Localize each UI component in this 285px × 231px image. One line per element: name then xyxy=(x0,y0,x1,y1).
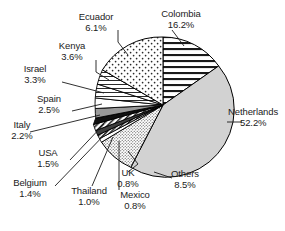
label-spain-name: Spain xyxy=(24,94,74,105)
label-israel-value: 3.3% xyxy=(8,75,62,86)
label-belgium-value: 1.4% xyxy=(2,189,58,200)
label-belgium-name: Belgium xyxy=(2,178,58,189)
label-spain-value: 2.5% xyxy=(24,105,74,116)
label-belgium: Belgium 1.4% xyxy=(2,178,58,199)
pie-chart-figure: Ecuador 6.1% Colombia 16.2% Kenya 3.6% I… xyxy=(0,0,285,231)
label-ecuador: Ecuador 6.1% xyxy=(60,12,132,33)
label-colombia-value: 16.2% xyxy=(144,20,218,31)
label-uk-value: 0.8% xyxy=(108,179,148,190)
label-italy-name: Italy xyxy=(0,120,44,131)
label-usa: USA 1.5% xyxy=(26,148,70,169)
label-israel-name: Israel xyxy=(8,64,62,75)
label-netherlands-name: Netherlands xyxy=(228,107,285,118)
label-kenya: Kenya 3.6% xyxy=(42,41,102,62)
label-mexico-value: 0.8% xyxy=(110,201,160,212)
label-colombia: Colombia 16.2% xyxy=(144,9,218,30)
label-mexico: Mexico 0.8% xyxy=(110,190,160,211)
label-others-name: Others xyxy=(160,169,210,180)
label-israel: Israel 3.3% xyxy=(8,64,62,85)
label-others: Others 8.5% xyxy=(160,169,210,190)
label-netherlands-value: 52.2% xyxy=(240,118,285,129)
label-italy: Italy 2.2% xyxy=(0,120,44,141)
label-usa-name: USA xyxy=(26,148,70,159)
label-kenya-value: 3.6% xyxy=(42,52,102,63)
pie-slices xyxy=(93,37,234,177)
leader-usa xyxy=(70,124,104,160)
label-spain: Spain 2.5% xyxy=(24,94,74,115)
label-kenya-name: Kenya xyxy=(42,41,102,52)
label-others-value: 8.5% xyxy=(160,180,210,191)
label-colombia-name: Colombia xyxy=(144,9,218,20)
label-usa-value: 1.5% xyxy=(26,159,70,170)
label-ecuador-name: Ecuador xyxy=(60,12,132,23)
label-netherlands: Netherlands 52.2% xyxy=(228,107,285,128)
label-ecuador-value: 6.1% xyxy=(60,23,132,34)
label-uk-name: UK xyxy=(108,168,148,179)
label-mexico-name: Mexico xyxy=(110,190,160,201)
label-uk: UK 0.8% xyxy=(108,168,148,189)
label-italy-value: 2.2% xyxy=(0,131,44,142)
